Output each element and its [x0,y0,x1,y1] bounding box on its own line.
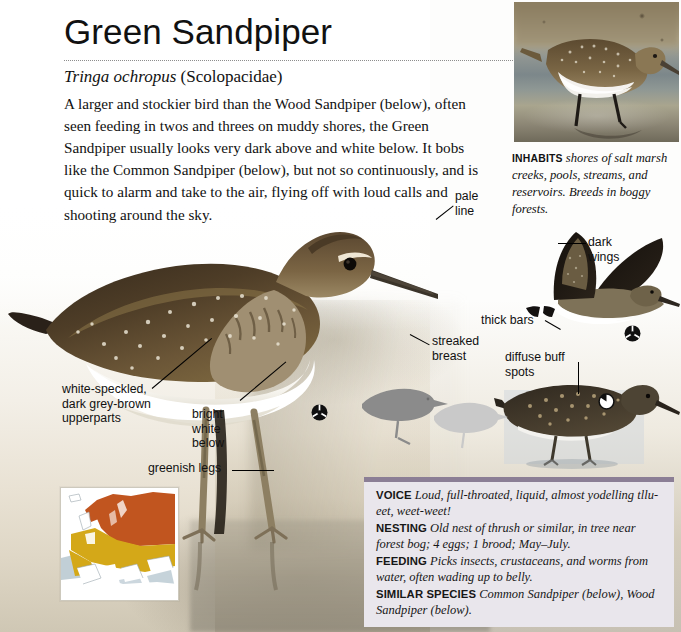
leader-dark-wings [558,243,586,244]
fact-entry-similar-species: SIMILAR SPECIES Common Sandpiper (below)… [376,586,664,618]
callout-thick-bars: thick bars [481,313,534,328]
photo-sandpiper-silhouette [514,2,679,142]
comparison-silhouette-light [430,392,510,454]
fact-entry-voice: VOICE Loud, full-throated, liquid, almos… [376,487,664,519]
callout-streaked-breast: streaked breast [432,334,479,363]
fact-box: VOICE Loud, full-throated, liquid, almos… [364,477,674,627]
family-name: (Scolopacidae) [181,67,283,86]
callout-greenish-legs: greenish legs [148,461,221,476]
fact-label-nesting: NESTING [376,522,427,534]
fact-entry-feeding: FEEDING Picks insects, crustaceans, and … [376,553,664,585]
map-svg [61,488,178,600]
plumage-indicator-dark-icon-2 [624,325,641,342]
habitat-photo [514,2,679,142]
leader-greenish-legs [232,470,274,471]
callout-upperparts: white-speckled, dark grey-brown upperpar… [62,382,151,426]
page-title: Green Sandpiper [64,14,332,51]
fact-entry-nesting: NESTING Old nest of thrush or similar, i… [376,520,664,552]
scientific-name: Tringa ochropus (Scolopacidae) [64,66,282,87]
callout-bright-white: bright white below [192,407,224,451]
fact-text-voice: Loud, full-throated, liquid, almost yode… [376,488,658,518]
plumage-indicator-dark-icon [311,404,328,421]
inhabits-label: INHABITS [512,153,563,164]
fact-label-similar-species: SIMILAR SPECIES [376,588,476,600]
callout-diffuse-buff: diffuse buff spots [505,350,565,379]
plumage-indicator-light-icon [598,393,615,410]
scientific-name-latin: Tringa ochropus [64,67,176,86]
callout-dark-wings: dark wings [588,235,619,264]
leader-diffuse-buff [578,362,579,394]
field-guide-page: Green Sandpiper Tringa ochropus (Scolopa… [0,0,681,632]
fact-box-top-bar [364,477,674,482]
inhabits-block: INHABITS shores of salt marsh creeks, po… [512,150,674,219]
distribution-map [60,487,179,601]
fact-label-voice: VOICE [376,489,412,501]
fact-box-body: VOICE Loud, full-throated, liquid, almos… [376,487,664,620]
fact-label-feeding: FEEDING [376,555,427,567]
callout-pale-line: pale line [455,189,478,218]
